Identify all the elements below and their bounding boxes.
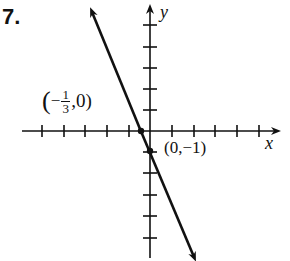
open-paren: ( xyxy=(42,86,51,115)
rest-coords: ,0) xyxy=(71,90,92,111)
x-intercept-label: (−13,0) xyxy=(42,86,92,116)
fraction: 13 xyxy=(61,88,70,115)
y-intercept-point xyxy=(147,148,153,154)
x-axis xyxy=(22,125,276,137)
minus-sign: − xyxy=(51,91,61,110)
denominator: 3 xyxy=(63,102,70,115)
y-axis xyxy=(143,9,157,258)
x-axis-label: x xyxy=(265,133,273,154)
x-intercept-point xyxy=(138,128,144,134)
graph-figure xyxy=(0,0,290,261)
numerator: 1 xyxy=(63,88,70,101)
problem-number: 7. xyxy=(2,4,20,30)
y-intercept-label: (0,−1) xyxy=(164,138,206,158)
y-axis-label: y xyxy=(160,2,168,23)
